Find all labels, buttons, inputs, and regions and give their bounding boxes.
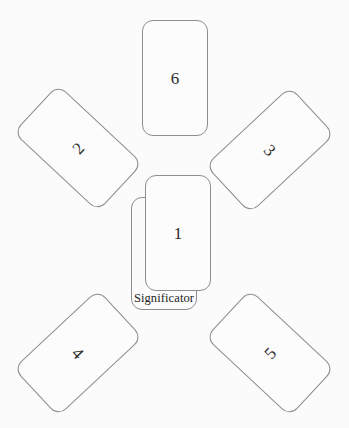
significator-label: Significator [134,291,194,309]
card-number-label: 2 [69,139,87,157]
card-slot-4[interactable]: 4 [13,289,143,416]
card-number-label: 4 [69,344,87,362]
card-number-label: 3 [261,141,279,159]
card-number-label: 5 [261,344,279,362]
card-slot-3[interactable]: 3 [205,86,335,213]
card-number-label: 6 [171,70,180,87]
card-slot-6[interactable]: 6 [142,20,208,136]
card-slot-2[interactable]: 2 [13,84,143,211]
card-number-label: 1 [174,225,183,242]
card-slot-5[interactable]: 5 [205,289,335,416]
card-slot-1[interactable]: 1 [145,175,211,291]
card-spread-diagram: 6 2 3 Significator 1 4 5 [0,0,349,428]
